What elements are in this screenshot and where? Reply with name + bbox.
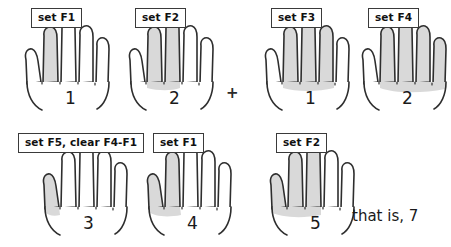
hand-counter-2: 2 [169,90,180,107]
hand-counter-6: 4 [187,215,198,232]
hand-figure-1: set F1 1 [18,8,118,116]
hand-label-1: set F1 [31,8,82,28]
hand-counter-3: 1 [305,90,316,107]
hand-label-6: set F1 [153,133,204,153]
hand-figure-4: set F4 2 [355,8,451,116]
hand-counter-5: 3 [83,215,94,232]
hand-label-2: set F2 [135,8,186,28]
hand-figure-7: set F2 5 [263,133,363,243]
hand-figure-3: set F3 1 [258,8,358,116]
hand-counter-4: 2 [402,90,413,107]
plus-operator: + [226,86,239,101]
hand-counter-1: 1 [65,90,76,107]
hand-label-7: set F2 [276,133,327,153]
hand-counter-7: 5 [310,215,321,232]
hand-figure-6: set F1 4 [140,133,240,243]
hand-label-3: set F3 [271,8,322,28]
hand-label-4: set F4 [368,8,419,28]
hand-figure-2: set F2 2 [122,8,222,116]
hand-figure-5: set F5, clear F4-F1 3 [18,133,128,243]
result-caption: that is, 7 [352,209,418,224]
hand-label-5: set F5, clear F4-F1 [18,133,144,153]
